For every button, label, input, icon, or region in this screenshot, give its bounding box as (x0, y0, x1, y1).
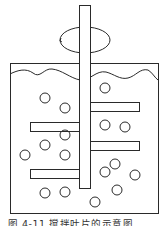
stirrer-shaft (80, 6, 91, 189)
blade-right-top (91, 103, 140, 112)
stirred-tank-diagram (0, 0, 168, 226)
arrowhead-icon (60, 38, 62, 42)
blade-right-middle (91, 142, 140, 151)
blade-left-upper (31, 123, 80, 132)
figure-caption: 图 4-11 搅拌叶片的示意图 (8, 216, 133, 226)
blade-left-lower (31, 170, 80, 179)
